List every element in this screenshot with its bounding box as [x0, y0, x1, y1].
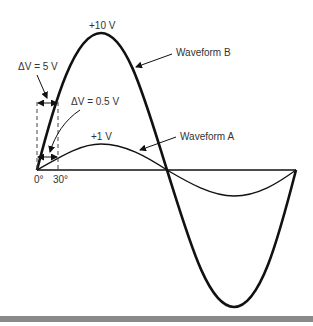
- bottom-divider-bar: [0, 316, 313, 322]
- delta-v-a-leader: [50, 110, 80, 152]
- delta-v-b-label: ΔV = 5 V: [18, 62, 58, 72]
- peak-b-label: +10 V: [89, 21, 115, 31]
- angle-zero-label: 0°: [34, 175, 44, 185]
- peak-a-label: +1 V: [91, 132, 112, 142]
- waveform-b-leader: [136, 54, 172, 67]
- sine-waveform-diagram: [0, 0, 313, 326]
- angle-thirty-label: 30°: [53, 175, 68, 185]
- delta-v-b-leader: [37, 75, 47, 98]
- waveform-a-label: Waveform A: [180, 132, 234, 142]
- waveform-b-label: Waveform B: [176, 48, 231, 58]
- delta-v-a-label: ΔV = 0.5 V: [71, 97, 119, 107]
